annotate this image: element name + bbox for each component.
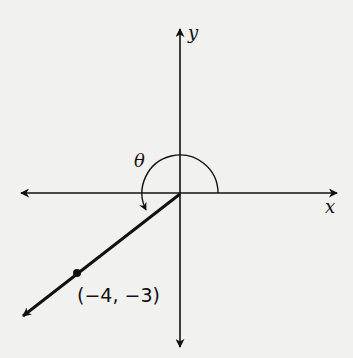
diagram-canvas: y x θ (−4, −3): [0, 0, 353, 358]
point-marker: [73, 269, 81, 277]
x-axis-label: x: [325, 196, 335, 217]
point-label: (−4, −3): [77, 284, 160, 306]
theta-label: θ: [134, 150, 145, 171]
y-axis-label: y: [188, 22, 198, 43]
coordinate-plane: [0, 0, 353, 358]
